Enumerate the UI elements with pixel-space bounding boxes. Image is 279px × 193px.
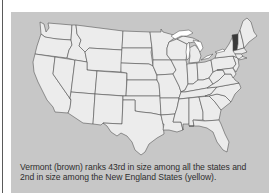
caption-line-1: Vermont (brown) ranks 43rd in size among… [20,162,266,172]
state-montana [76,25,123,52]
state-north-dakota [122,31,152,48]
page-edge-line [2,0,3,193]
caption-line-2: 2nd in size among the New England States… [20,172,266,182]
map-figure-panel: Vermont (brown) ranks 43rd in size among… [11,12,269,193]
states [33,18,257,155]
state-arizona [68,92,95,124]
figure-caption: Vermont (brown) ranks 43rd in size among… [20,162,266,183]
us-map [11,12,269,162]
state-indiana [187,63,198,84]
state-florida [189,120,229,152]
state-colorado [95,71,127,96]
lake-erie [201,54,213,60]
state-wyoming [85,48,122,72]
state-kansas [126,80,160,96]
state-new-mexico [93,94,123,125]
